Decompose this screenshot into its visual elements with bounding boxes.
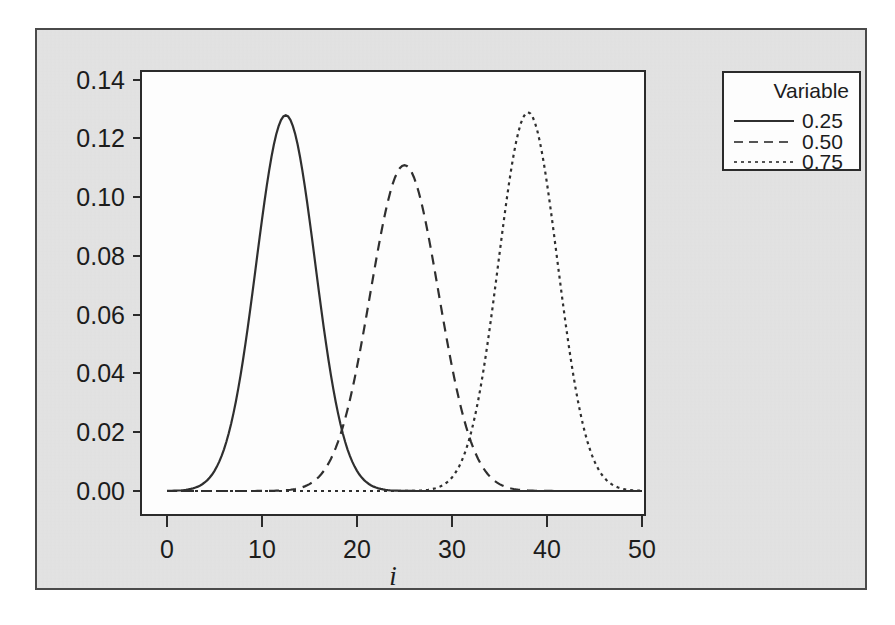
x-axis-ticks xyxy=(167,515,642,527)
x-axis-title: i xyxy=(389,561,397,591)
y-tick-label-0.00: 0.00 xyxy=(76,477,125,505)
y-tick-label-0.10: 0.10 xyxy=(76,183,125,211)
x-tick-label-10: 10 xyxy=(248,535,276,563)
x-tick-label-0: 0 xyxy=(160,535,174,563)
plot-area-frame xyxy=(141,71,645,515)
legend-label-0.25[interactable]: 0.25 xyxy=(802,109,843,132)
legend-title: Variable xyxy=(774,79,850,102)
y-axis-ticks xyxy=(133,80,141,491)
x-tick-label-20: 20 xyxy=(343,535,371,563)
y-tick-label-0.12: 0.12 xyxy=(76,124,125,152)
x-tick-label-50: 50 xyxy=(628,535,656,563)
legend[interactable]: Variable 0.25 0.50 0.75 xyxy=(723,72,860,173)
x-tick-label-40: 40 xyxy=(533,535,561,563)
y-tick-label-0.14: 0.14 xyxy=(76,66,125,94)
chart-canvas: 0.14 0.12 0.10 0.08 0.06 0.04 0.02 0.00 … xyxy=(37,30,869,592)
y-tick-label-0.04: 0.04 xyxy=(76,359,125,387)
y-tick-label-0.06: 0.06 xyxy=(76,301,125,329)
x-tick-label-30: 30 xyxy=(438,535,466,563)
legend-label-0.75[interactable]: 0.75 xyxy=(802,150,843,173)
y-tick-label-0.02: 0.02 xyxy=(76,418,125,446)
y-tick-label-0.08: 0.08 xyxy=(76,242,125,270)
figure-panel: 0.14 0.12 0.10 0.08 0.06 0.04 0.02 0.00 … xyxy=(35,28,867,590)
